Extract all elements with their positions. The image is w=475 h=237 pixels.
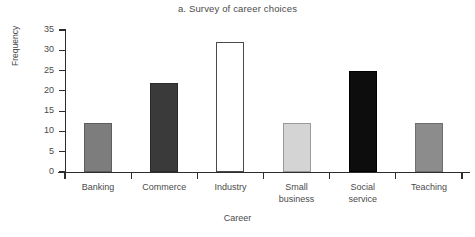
x-axis-label: Career: [0, 213, 475, 223]
y-tick-label: 0: [28, 167, 54, 176]
x-tick-mark: [197, 173, 198, 179]
bar-chart-figure: a. Survey of career choices Frequency 05…: [0, 0, 475, 237]
x-tick-label: Smallbusiness: [261, 182, 333, 205]
bar-small-business[interactable]: [283, 123, 311, 172]
x-tick-label: Teaching: [393, 182, 465, 194]
y-tick-label: 20: [28, 86, 54, 95]
x-tick-mark: [461, 173, 462, 179]
bar-industry[interactable]: [216, 42, 244, 172]
x-tick-label-line: Commerce: [128, 182, 200, 194]
x-tick-label: Socialservice: [327, 182, 399, 205]
y-tick-label: 30: [28, 45, 54, 54]
chart-title: a. Survey of career choices: [0, 3, 475, 14]
y-axis-label-text: Frequency: [10, 26, 20, 66]
x-tick-mark: [395, 173, 396, 179]
bar-commerce[interactable]: [150, 83, 178, 172]
x-tick-label-line: Small: [261, 182, 333, 194]
y-tick-label: 10: [28, 126, 54, 135]
y-tick-label: 35: [28, 25, 54, 34]
plot-area: [65, 30, 462, 172]
x-tick-label-line: business: [261, 194, 333, 206]
x-tick-mark: [329, 173, 330, 179]
bar-social-service[interactable]: [349, 71, 377, 172]
x-tick-mark: [131, 173, 132, 179]
y-tick-label: 15: [28, 106, 54, 115]
x-tick-label-line: Teaching: [393, 182, 465, 194]
x-tick-label: Industry: [194, 182, 266, 194]
x-tick-mark: [263, 173, 264, 179]
x-tick-label: Banking: [62, 182, 134, 194]
x-tick-label: Commerce: [128, 182, 200, 194]
bar-teaching[interactable]: [415, 123, 443, 172]
x-tick-label-line: service: [327, 194, 399, 206]
y-axis-label: Frequency: [10, 0, 20, 66]
x-tick-label-line: Industry: [194, 182, 266, 194]
x-tick-label-line: Banking: [62, 182, 134, 194]
bar-banking[interactable]: [84, 123, 112, 172]
x-tick-label-line: Social: [327, 182, 399, 194]
y-tick-label: 25: [28, 66, 54, 75]
y-tick-label: 5: [28, 147, 54, 156]
x-tick-mark: [64, 173, 65, 179]
